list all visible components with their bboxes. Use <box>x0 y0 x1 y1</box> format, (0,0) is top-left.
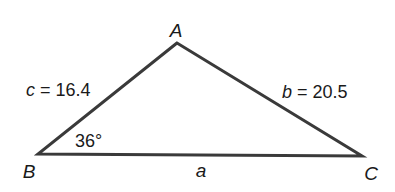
side-c-eq: = <box>35 80 56 100</box>
side-b-var: b <box>282 82 292 102</box>
vertex-label-c: C <box>364 163 378 184</box>
side-label-c: c = 16.4 <box>26 80 91 100</box>
side-c-value: 16.4 <box>56 80 91 100</box>
side-label-a: a <box>196 160 207 181</box>
triangle-figure: A B C a c = 16.4 b = 20.5 36° <box>0 0 395 192</box>
triangle-diagram: A B C a c = 16.4 b = 20.5 36° <box>0 0 395 192</box>
side-c-var: c <box>26 80 35 100</box>
side-b-eq: = <box>292 82 313 102</box>
vertex-label-a: A <box>169 20 183 41</box>
side-label-b: b = 20.5 <box>282 82 348 102</box>
side-b-value: 20.5 <box>313 82 348 102</box>
angle-b-label: 36° <box>75 131 102 151</box>
vertex-label-b: B <box>23 161 36 182</box>
